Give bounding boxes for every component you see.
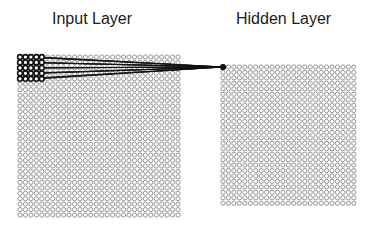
hidden-node — [286, 98, 290, 102]
receptive-field-node — [34, 55, 39, 60]
input-node — [40, 197, 44, 201]
input-node — [149, 213, 153, 217]
input-node — [62, 197, 66, 201]
input-node — [62, 169, 66, 173]
receptive-field-node — [34, 66, 39, 71]
hidden-node — [335, 163, 339, 167]
input-node — [45, 158, 49, 162]
input-node — [34, 186, 38, 190]
input-node — [165, 202, 169, 206]
input-node — [29, 191, 33, 195]
input-node — [111, 120, 115, 124]
input-node — [171, 109, 175, 113]
hidden-node — [265, 147, 269, 151]
input-node — [29, 131, 33, 135]
input-node — [29, 202, 33, 206]
hidden-node — [346, 65, 350, 69]
hidden-node — [292, 76, 296, 80]
input-node — [94, 186, 98, 190]
input-node — [143, 180, 147, 184]
input-node — [176, 126, 180, 130]
input-node — [160, 126, 164, 130]
hidden-node — [232, 168, 236, 172]
input-node — [149, 208, 153, 212]
hidden-node — [232, 92, 236, 96]
hidden-node — [232, 163, 236, 167]
input-node — [105, 169, 109, 173]
hidden-node — [335, 190, 339, 194]
hidden-node — [335, 81, 339, 85]
hidden-node — [303, 185, 307, 189]
hidden-node — [232, 141, 236, 145]
hidden-node — [275, 119, 279, 123]
hidden-node — [265, 201, 269, 205]
input-node — [51, 180, 55, 184]
input-node — [89, 169, 93, 173]
hidden-node — [286, 76, 290, 80]
input-node — [100, 213, 104, 217]
input-node — [40, 104, 44, 108]
input-node — [149, 120, 153, 124]
hidden-active-node — [221, 65, 226, 70]
input-node — [62, 115, 66, 119]
input-node — [121, 197, 125, 201]
hidden-node — [275, 98, 279, 102]
hidden-node — [221, 76, 225, 80]
hidden-node — [248, 87, 252, 91]
hidden-node — [314, 152, 318, 156]
input-node — [34, 208, 38, 212]
hidden-node — [286, 92, 290, 96]
input-node — [78, 88, 82, 92]
hidden-node — [275, 168, 279, 172]
hidden-node — [314, 130, 318, 134]
hidden-node — [237, 130, 241, 134]
hidden-node — [330, 125, 334, 129]
input-node — [78, 131, 82, 135]
input-node — [56, 175, 60, 179]
hidden-node — [341, 190, 345, 194]
hidden-node — [303, 98, 307, 102]
hidden-node — [314, 196, 318, 200]
hidden-node — [314, 109, 318, 113]
input-node — [34, 93, 38, 97]
hidden-node — [237, 109, 241, 113]
input-node — [165, 191, 169, 195]
input-node — [51, 142, 55, 146]
hidden-node — [281, 141, 285, 145]
hidden-node — [265, 196, 269, 200]
hidden-node — [341, 76, 345, 80]
hidden-node — [243, 168, 247, 172]
input-node — [51, 213, 55, 217]
receptive-field-node — [39, 71, 44, 76]
input-node — [34, 191, 38, 195]
hidden-node — [248, 136, 252, 140]
input-node — [89, 131, 93, 135]
input-node — [171, 208, 175, 212]
hidden-node — [265, 65, 269, 69]
hidden-node — [221, 174, 225, 178]
input-node — [116, 191, 120, 195]
hidden-node — [308, 103, 312, 107]
hidden-node — [352, 196, 356, 200]
input-node — [18, 82, 22, 86]
hidden-node — [297, 136, 301, 140]
hidden-node — [335, 179, 339, 183]
input-node — [165, 142, 169, 146]
hidden-node — [292, 92, 296, 96]
input-node — [40, 120, 44, 124]
input-node — [62, 126, 66, 130]
input-node — [127, 153, 131, 157]
input-node — [100, 137, 104, 141]
hidden-node — [286, 147, 290, 151]
input-node — [105, 202, 109, 206]
hidden-node — [308, 136, 312, 140]
hidden-node — [324, 119, 328, 123]
hidden-node — [270, 92, 274, 96]
input-node — [72, 120, 76, 124]
input-node — [67, 148, 71, 152]
hidden-node — [259, 174, 263, 178]
hidden-node — [248, 109, 252, 113]
hidden-node — [352, 76, 356, 80]
input-node — [89, 191, 93, 195]
input-node — [176, 77, 180, 81]
